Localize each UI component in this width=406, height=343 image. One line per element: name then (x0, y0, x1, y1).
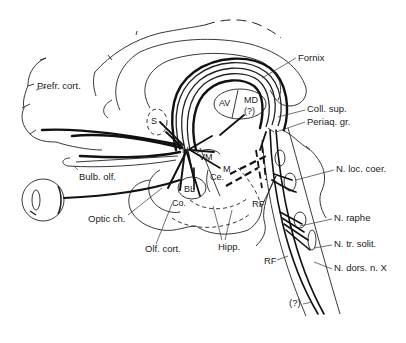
label-av: AV (219, 98, 230, 108)
label-n-dors-n-x: N. dors. n. X (334, 262, 387, 273)
label-fornix: Fornix (298, 52, 325, 63)
cingulate-arcs (104, 39, 307, 118)
label-md: MD (244, 95, 258, 105)
label-n-loc-coer: N. loc. coer. (336, 163, 386, 174)
label-unknown-bottom: (?) (289, 297, 301, 308)
label-s: S (151, 116, 157, 126)
label-n-tr-solit: N. tr. solit. (334, 238, 376, 249)
label-m: M (223, 164, 231, 174)
brain-stem (256, 128, 340, 316)
label-prefr-cort: Prefr. cort. (37, 80, 81, 91)
label-md-question: (?) (244, 106, 255, 116)
label-coll-sup: Coll. sup. (307, 103, 347, 114)
label-olf-cort: Olf. cort. (145, 243, 181, 254)
label-bulb-olf: Bulb. olf. (79, 171, 116, 182)
thalamus: AV MD (?) (214, 89, 266, 135)
label-n-raphe: N. raphe (334, 212, 370, 223)
label-hipp: Hipp. (218, 241, 240, 252)
diagram-svg: AV MD (?) S H VM BL Co. Ce. M (0, 0, 406, 343)
label-rf-upper: RF (252, 198, 265, 209)
brain-diagram: AV MD (?) S H VM BL Co. Ce. M (0, 0, 406, 343)
septum: S (147, 109, 167, 135)
label-rf-lower: RF (264, 255, 277, 266)
label-periaq-gr: Periaq. gr. (307, 116, 350, 127)
label-ce: Ce. (210, 172, 224, 182)
label-h: H (182, 145, 189, 155)
label-co: Co. (172, 198, 186, 208)
label-optic-ch: Optic ch. (88, 213, 126, 224)
